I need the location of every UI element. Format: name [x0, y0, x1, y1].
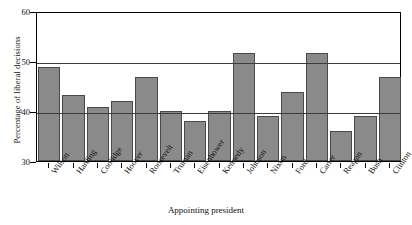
x-tick-ford	[292, 163, 293, 168]
x-tick-clinton	[389, 163, 390, 168]
x-tick-harding	[73, 163, 74, 168]
bar-wilson[interactable]	[38, 67, 61, 161]
bar-chart-figure: Percentage of liberal decisions 30405060…	[0, 0, 412, 225]
x-tick-bush	[365, 163, 366, 168]
x-tick-nixon	[267, 163, 268, 168]
x-axis-title: Appointing president	[0, 205, 412, 215]
x-tick-kennedy	[219, 163, 220, 168]
y-tick-60	[30, 12, 36, 13]
gridline-50	[37, 63, 400, 64]
bar-carter[interactable]	[306, 53, 329, 162]
x-tick-johnson	[243, 163, 244, 168]
x-tick-wilson	[48, 163, 49, 168]
x-tick-hoover	[121, 163, 122, 168]
bar-clinton[interactable]	[379, 77, 402, 161]
y-tick-40	[30, 112, 36, 113]
bar-johnson[interactable]	[233, 53, 256, 161]
x-tick-coolidge	[97, 163, 98, 168]
y-tick-30	[30, 162, 36, 163]
bar-ford[interactable]	[281, 92, 304, 161]
x-tick-carter	[316, 163, 317, 168]
x-tick-truman	[170, 163, 171, 168]
x-tick-eisenhower	[194, 163, 195, 168]
bar-roosevelt[interactable]	[135, 77, 158, 161]
y-tick-label-30: 30	[8, 157, 30, 167]
gridline-40	[37, 113, 400, 114]
y-tick-50	[30, 62, 36, 63]
y-axis-tick-labels: 30405060	[6, 0, 30, 225]
x-tick-roosevelt	[146, 163, 147, 168]
y-tick-label-40: 40	[8, 107, 30, 117]
y-tick-label-50: 50	[8, 57, 30, 67]
x-tick-reagan	[340, 163, 341, 168]
y-tick-label-60: 60	[8, 7, 30, 17]
